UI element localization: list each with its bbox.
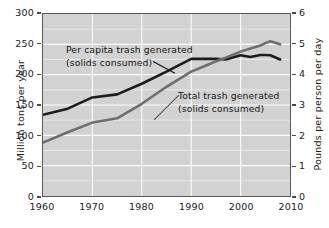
annotation-per-capita-line2: (solids consumed) — [66, 56, 193, 69]
x-tick-1990: 1990 — [179, 202, 204, 212]
annotation-total-line2: (solids consumed) — [178, 102, 280, 115]
y-tickmark-left-250 — [37, 43, 41, 45]
y-tickmark-left-200 — [37, 74, 41, 76]
y-tickmark-left-100 — [37, 135, 41, 137]
y-tick-right-1: 1 — [299, 162, 325, 172]
annotation-per-capita-line1: Per capita trash generated — [66, 43, 193, 56]
chart-figure: Per capita trash generated (solids consu… — [0, 0, 329, 228]
y-tick-right-3: 3 — [299, 100, 325, 110]
y-tickmark-left-50 — [37, 166, 41, 168]
annotation-total-line1: Total trash generated — [178, 89, 280, 102]
annotation-per-capita: Per capita trash generated (solids consu… — [66, 43, 193, 69]
x-tick-2000: 2000 — [229, 202, 254, 212]
y-tickmark-left-150 — [37, 104, 41, 106]
y-tickmark-right-6 — [292, 12, 296, 14]
y-tickmark-right-4 — [292, 74, 296, 76]
y-tickmark-right-2 — [292, 135, 296, 137]
y-tickmark-left-0 — [37, 196, 41, 198]
annotation-total: Total trash generated (solids consumed) — [178, 89, 280, 115]
y-tick-right-5: 5 — [299, 39, 325, 49]
y-axis-right-title: Pounds per person per day — [312, 51, 323, 171]
y-tickmark-right-1 — [292, 166, 296, 168]
y-tickmark-right-0 — [292, 196, 296, 198]
y-tick-left-100: 100 — [0, 131, 34, 141]
y-tick-left-250: 250 — [0, 39, 34, 49]
x-tick-1970: 1970 — [79, 202, 104, 212]
y-tick-left-300: 300 — [0, 8, 34, 18]
x-tick-1980: 1980 — [129, 202, 154, 212]
x-tick-1960: 1960 — [30, 202, 55, 212]
y-tick-right-2: 2 — [299, 131, 325, 141]
y-tick-left-150: 150 — [0, 100, 34, 110]
y-tick-right-4: 4 — [299, 70, 325, 80]
y-tick-left-200: 200 — [0, 70, 34, 80]
x-tick-2010: 2010 — [279, 202, 304, 212]
y-tickmark-right-3 — [292, 104, 296, 106]
y-tickmark-right-5 — [292, 43, 296, 45]
y-tick-left-50: 50 — [0, 162, 34, 172]
y-tick-right-6: 6 — [299, 8, 325, 18]
y-tickmark-left-300 — [37, 12, 41, 14]
